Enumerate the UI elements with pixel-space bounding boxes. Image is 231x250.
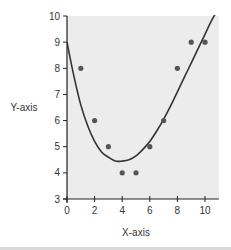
data-point <box>120 170 125 175</box>
data-point <box>78 66 83 71</box>
x-tick-label: 10 <box>199 205 211 216</box>
x-tick-label: 2 <box>92 205 98 216</box>
data-point <box>133 170 138 175</box>
y-tick-label: 5 <box>54 141 60 152</box>
y-tick-label: 8 <box>54 63 60 74</box>
y-tick-label: 9 <box>54 37 60 48</box>
data-point <box>147 144 152 149</box>
y-tick-label: 4 <box>54 167 60 178</box>
y-tick-label: 7 <box>54 89 60 100</box>
y-axis-label: Y-axis <box>11 102 38 113</box>
x-tick-label: 8 <box>175 205 181 216</box>
data-point <box>161 118 166 123</box>
x-tick-label: 0 <box>64 205 70 216</box>
x-tick-label: 4 <box>119 205 125 216</box>
data-point <box>202 40 207 45</box>
data-point <box>106 144 111 149</box>
y-tick-label: 3 <box>54 194 60 205</box>
x-tick-label: 6 <box>147 205 153 216</box>
y-tick-label: 6 <box>54 115 60 126</box>
data-point <box>92 118 97 123</box>
data-point <box>175 66 180 71</box>
y-tick-label: 10 <box>49 11 61 22</box>
x-axis-label: X-axis <box>122 227 150 238</box>
plot-background <box>67 16 219 199</box>
data-point <box>189 40 194 45</box>
scatter-chart: 0246810 345678910 X-axis Y-axis <box>0 0 231 250</box>
